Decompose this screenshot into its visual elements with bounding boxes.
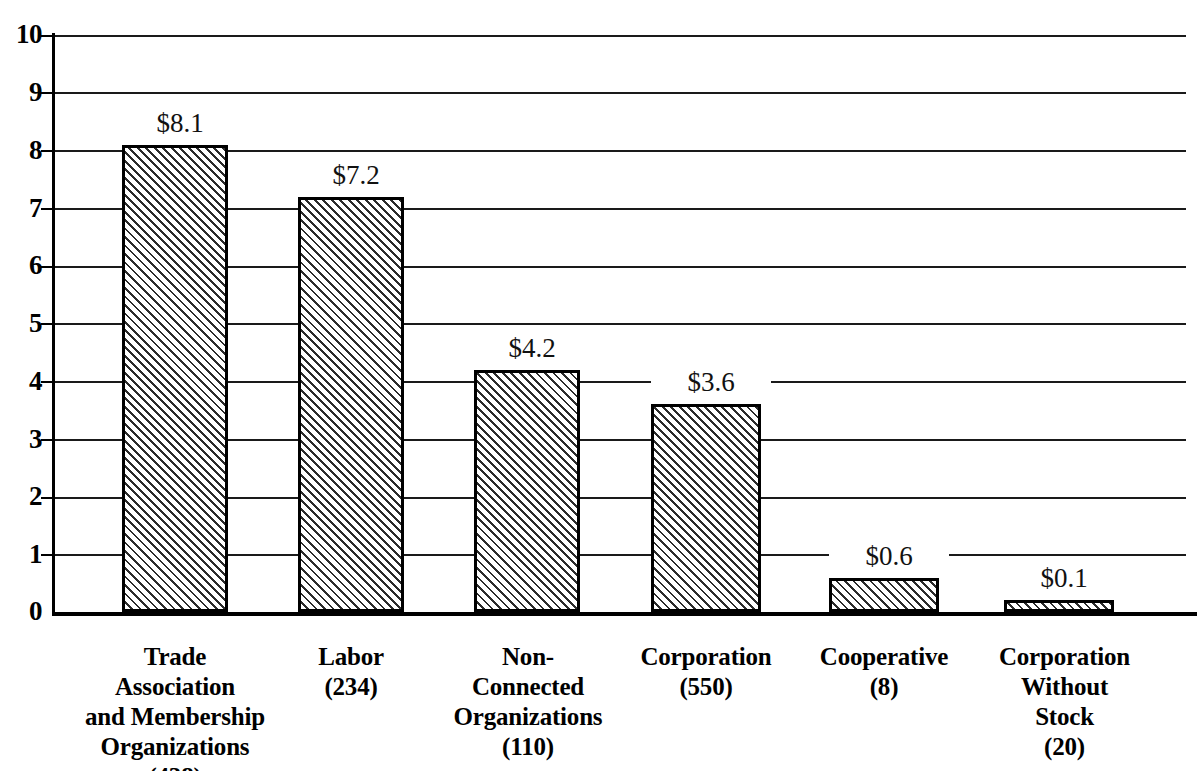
category-label-trade-association: Trade Association and Membership Organiz… (45, 642, 305, 771)
y-tick-7 (41, 208, 52, 210)
y-axis-label-7: 7 (2, 195, 42, 222)
y-axis-line (52, 33, 55, 614)
y-tick-8 (41, 150, 52, 152)
gridline-9 (52, 92, 1186, 94)
data-label-non-connected: $4.2 (474, 333, 590, 363)
y-tick-3 (41, 439, 52, 441)
y-tick-10 (41, 35, 52, 37)
y-axis-label-3: 3 (2, 426, 42, 453)
y-tick-2 (41, 497, 52, 499)
bar-labor[interactable] (298, 197, 404, 612)
y-axis-label-5: 5 (2, 310, 42, 337)
axis-baseline (52, 612, 1197, 616)
bar-non-connected[interactable] (474, 370, 580, 612)
y-axis-label-10: 10 (2, 21, 42, 48)
data-label-corporation: $3.6 (651, 367, 771, 397)
y-axis-label-8: 8 (2, 137, 42, 164)
plot-area: 10 9 8 7 6 5 4 3 2 1 0 $8.1 $7.2 $4.2 $3… (0, 0, 1197, 640)
y-tick-1 (41, 554, 52, 556)
category-label-corporation: Corporation (550) (613, 642, 799, 702)
data-label-labor: $7.2 (298, 160, 414, 190)
y-tick-9 (41, 92, 52, 94)
y-axis-label-1: 1 (2, 541, 42, 568)
y-axis-label-6: 6 (2, 252, 42, 279)
data-label-corporation-without-stock: $0.1 (1004, 563, 1124, 593)
y-axis-label-4: 4 (2, 368, 42, 395)
y-tick-5 (41, 323, 52, 325)
y-axis-label-0: 0 (2, 598, 42, 625)
y-tick-6 (41, 266, 52, 268)
bar-cooperative[interactable] (829, 578, 939, 612)
bar-corporation[interactable] (651, 404, 761, 612)
x-axis-category-labels: Trade Association and Membership Organiz… (0, 632, 1197, 771)
y-axis-label-2: 2 (2, 483, 42, 510)
bar-corporation-without-stock[interactable] (1004, 600, 1114, 612)
bar-chart: 10 9 8 7 6 5 4 3 2 1 0 $8.1 $7.2 $4.2 $3… (0, 0, 1197, 771)
y-axis-label-9: 9 (2, 79, 42, 106)
bar-trade-association[interactable] (122, 145, 228, 612)
data-label-trade-association: $8.1 (122, 108, 238, 138)
category-label-labor: Labor (234) (281, 642, 421, 702)
data-label-cooperative: $0.6 (829, 541, 949, 571)
gridline-10 (52, 35, 1186, 37)
category-label-non-connected: Non- Connected Organizations (110) (428, 642, 628, 762)
y-tick-4 (41, 381, 52, 383)
category-label-cooperative: Cooperative (8) (793, 642, 975, 702)
category-label-corporation-without-stock: Corporation Without Stock (20) (972, 642, 1157, 762)
